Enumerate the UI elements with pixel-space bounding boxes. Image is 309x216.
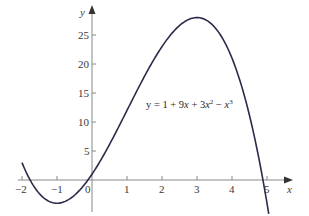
y-tick-label: 15 bbox=[78, 87, 90, 99]
y-tick-label: 25 bbox=[78, 29, 90, 41]
x-tick-label: −2 bbox=[15, 183, 27, 195]
x-ticks bbox=[22, 176, 267, 180]
y-tick-label: 10 bbox=[78, 116, 90, 128]
x-tick-labels: −2 −1 0 1 2 3 4 5 bbox=[15, 183, 270, 195]
y-tick-label: 20 bbox=[78, 58, 90, 70]
x-tick-label: 3 bbox=[194, 183, 200, 195]
y-tick-label: 5 bbox=[84, 145, 90, 157]
y-tick-labels: 5 10 15 20 25 bbox=[78, 29, 90, 157]
y-ticks bbox=[92, 35, 96, 151]
y-axis-label: y bbox=[79, 6, 85, 18]
x-axis-label: x bbox=[286, 183, 292, 195]
y-axis-arrow-icon bbox=[89, 5, 96, 14]
x-tick-label: 4 bbox=[229, 183, 235, 195]
x-tick-label: −1 bbox=[51, 183, 63, 195]
x-tick-label: 2 bbox=[159, 183, 165, 195]
formula-label: y = 1 + 9x + 3x2 − x3 bbox=[146, 98, 233, 110]
function-plot: x y −2 −1 0 1 2 3 4 5 5 10 15 20 bbox=[0, 0, 309, 216]
x-tick-label: 0 bbox=[85, 183, 91, 195]
x-tick-label: 1 bbox=[124, 183, 130, 195]
